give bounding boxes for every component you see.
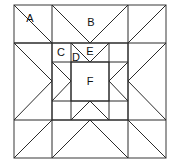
- patch-label-c: C: [57, 46, 65, 58]
- patch-label-b: B: [87, 16, 94, 28]
- patch-label-e: E: [86, 45, 93, 57]
- patch-label-a: A: [26, 12, 34, 24]
- patch-label-f: F: [87, 75, 94, 87]
- quilt-block-diagram: A B C D E F: [0, 0, 178, 165]
- quilt-block-svg: A B C D E F: [0, 0, 178, 165]
- patch-label-d: D: [72, 51, 80, 63]
